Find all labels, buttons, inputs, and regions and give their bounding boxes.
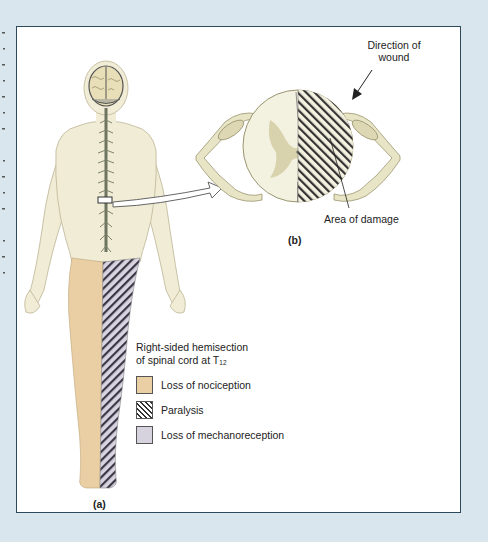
area-of-damage-label: Area of damage: [324, 213, 399, 225]
panel-a-label: (a): [93, 498, 106, 510]
legend: Right-sided hemisection of spinal cord a…: [136, 341, 336, 444]
legend-item-mechanoreception: Loss of mechanoreception: [136, 426, 336, 444]
legend-title-subscript: 12: [219, 359, 226, 366]
figure-artwork: [0, 0, 488, 542]
legend-title-line2: of spinal cord at T12: [136, 354, 336, 369]
direction-label-line2: wound: [356, 51, 432, 63]
legend-title-line1: Right-sided hemisection: [136, 341, 336, 354]
legend-label: Paralysis: [161, 404, 204, 416]
hatch-swatch-icon: [136, 401, 153, 419]
legend-item-paralysis: Paralysis: [136, 401, 336, 419]
spinal-cord-cross-section: [196, 70, 400, 208]
legend-title: Right-sided hemisection of spinal cord a…: [136, 341, 336, 369]
lavender-swatch-icon: [136, 426, 153, 444]
direction-of-wound-label: Direction of wound: [356, 39, 432, 63]
legend-label: Loss of mechanoreception: [161, 429, 284, 441]
legend-item-nociception: Loss of nociception: [136, 376, 336, 394]
tan-swatch-icon: [136, 376, 153, 394]
direction-label-line1: Direction of: [356, 39, 432, 51]
legend-label: Loss of nociception: [161, 379, 251, 391]
panel-b-label: (b): [288, 234, 301, 246]
